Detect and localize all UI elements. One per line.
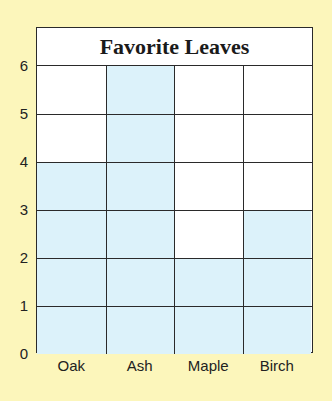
y-tick-label: 5 (4, 105, 28, 122)
x-tick-label: Oak (37, 357, 106, 374)
chart-frame: Favorite Leaves (36, 27, 313, 353)
plot-area (37, 66, 312, 354)
x-tick-label: Maple (174, 357, 243, 374)
x-tick-label: Birch (243, 357, 312, 374)
x-tick-label: Ash (106, 357, 175, 374)
y-tick-label: 6 (4, 57, 28, 74)
y-tick-label: 0 (4, 345, 28, 362)
y-tick-label: 4 (4, 153, 28, 170)
gridline-vertical (106, 66, 107, 354)
bar-birch (243, 210, 312, 354)
gridline-vertical (174, 66, 175, 354)
gridline-vertical (243, 66, 244, 354)
y-tick-label: 2 (4, 249, 28, 266)
y-tick-label: 3 (4, 201, 28, 218)
chart-title: Favorite Leaves (37, 28, 312, 66)
y-tick-label: 1 (4, 297, 28, 314)
